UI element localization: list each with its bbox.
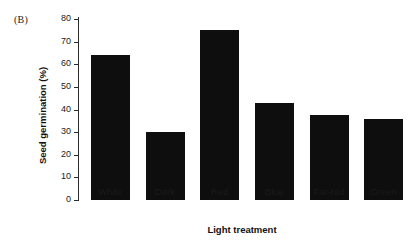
x-axis-title: Light treatment <box>78 224 406 236</box>
x-tick-label-dark: Dark <box>138 186 193 198</box>
y-tick-mark <box>74 132 78 133</box>
y-tick-label: 40 <box>61 104 71 115</box>
y-tick-mark <box>74 42 78 43</box>
y-tick-mark <box>74 64 78 65</box>
bar-red <box>200 30 239 200</box>
x-tick-label-green: Green <box>356 186 411 198</box>
x-tick-label-white: White <box>83 186 138 198</box>
y-tick-label: 60 <box>61 58 71 69</box>
y-axis-line <box>78 17 79 201</box>
y-axis-title: Seed germination (%) <box>37 31 48 201</box>
bar-white <box>91 55 130 200</box>
y-tick-mark <box>74 177 78 178</box>
y-tick-mark <box>74 19 78 20</box>
y-tick-label: 20 <box>61 149 71 160</box>
panel-label: (B) <box>14 14 28 26</box>
y-tick-mark <box>74 110 78 111</box>
x-tick-label-far-red: Far-red <box>302 186 357 198</box>
y-tick-mark <box>74 155 78 156</box>
y-tick-mark <box>74 200 78 201</box>
x-tick-label-red: Red <box>192 186 247 198</box>
plot-area: 01020304050607080 <box>78 19 406 200</box>
y-tick-mark <box>74 87 78 88</box>
y-tick-label: 70 <box>61 36 71 47</box>
bar-chart-figure: (B) Seed germination (%) 010203040506070… <box>0 0 413 246</box>
x-tick-label-blue: Blue <box>247 186 302 198</box>
y-tick-label: 80 <box>61 13 71 24</box>
y-tick-label: 50 <box>61 81 71 92</box>
y-tick-label: 0 <box>66 194 71 205</box>
y-tick-label: 10 <box>61 171 71 182</box>
y-tick-label: 30 <box>61 126 71 137</box>
